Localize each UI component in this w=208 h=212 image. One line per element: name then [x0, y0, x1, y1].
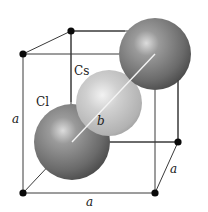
corner-node-back-top-left [67, 27, 74, 34]
edge-bottom-label: a [86, 196, 93, 208]
corner-node-back-bottom-right [174, 138, 181, 145]
edge-left-label: a [12, 113, 19, 125]
edge-depth-label: a [170, 163, 177, 175]
cs-label: Cs [74, 65, 89, 77]
corner-node-front-bottom-right [151, 189, 158, 196]
unit-cell-drawing [0, 0, 208, 212]
corner-node-front-top-left [19, 50, 26, 57]
body-diagonal-label: b [97, 115, 105, 127]
corner-node-front-bottom-left [19, 189, 26, 196]
cscl-unit-cell-diagram: Cs Cl b a a a [0, 0, 208, 212]
cl-label: Cl [36, 96, 49, 108]
edge-depth-top-left [23, 31, 71, 54]
